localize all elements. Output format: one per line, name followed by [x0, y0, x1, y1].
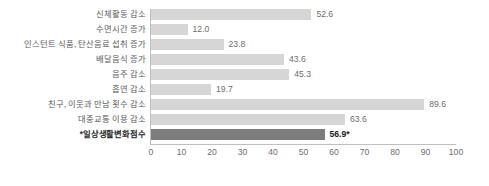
category-label-6: 친구, 이웃과 만남 횟수 감소	[0, 99, 146, 110]
category-axis-labels: 신체활동 감소 수면시간 증가 인스턴트 식품, 탄산음료 섭취 증가 배달음식…	[0, 9, 146, 144]
x-tick-7: 70	[360, 147, 370, 157]
x-tick-0: 0	[149, 147, 154, 157]
x-tick-6: 60	[329, 147, 339, 157]
bar-value-0: 52.6	[316, 8, 333, 20]
bar-value-4: 45.3	[294, 68, 311, 80]
x-tick-10: 100	[449, 147, 463, 157]
plot-area: 52.6 12.0 23.8 43.6 45.3 19.7 89.6	[151, 9, 456, 144]
bar-7	[151, 114, 345, 125]
category-label-4: 음주 감소	[0, 69, 146, 80]
x-tick-2: 20	[207, 147, 217, 157]
bar-value-1: 12.0	[193, 23, 210, 35]
bar-value-3: 43.6	[289, 53, 306, 65]
x-axis-line	[150, 144, 456, 145]
x-tick-8: 80	[390, 147, 400, 157]
category-label-2: 인스턴트 식품, 탄산음료 섭취 증가	[0, 39, 146, 50]
x-tick-9: 90	[421, 147, 431, 157]
bar-value-2: 23.8	[229, 38, 246, 50]
bar-5	[151, 84, 211, 95]
bar-value-6: 89.6	[429, 98, 446, 110]
category-label-8: *일상생활변화점수	[0, 129, 146, 140]
bar-chart: 신체활동 감소 수면시간 증가 인스턴트 식품, 탄산음료 섭취 증가 배달음식…	[0, 0, 489, 186]
x-axis-ticks: 0 10 20 30 40 50 60 70 80 90 100	[151, 147, 456, 161]
bar-1	[151, 24, 188, 35]
x-tick-5: 50	[299, 147, 309, 157]
bar-0	[151, 9, 311, 20]
bar-value-5: 19.7	[216, 83, 233, 95]
bar-6	[151, 99, 424, 110]
bar-4	[151, 69, 289, 80]
bar-value-7: 63.6	[350, 113, 367, 125]
category-label-0: 신체활동 감소	[0, 9, 146, 20]
x-tick-1: 10	[177, 147, 187, 157]
x-tick-4: 40	[268, 147, 278, 157]
bar-3	[151, 54, 284, 65]
category-label-7: 대중교통 이용 감소	[0, 114, 146, 125]
category-label-3: 배달음식 증가	[0, 54, 146, 65]
bar-value-8: 56.9*	[330, 128, 350, 140]
bar-8	[151, 129, 325, 140]
category-label-1: 수면시간 증가	[0, 24, 146, 35]
bar-2	[151, 39, 224, 50]
category-label-5: 흡연 감소	[0, 84, 146, 95]
x-tick-3: 30	[238, 147, 248, 157]
